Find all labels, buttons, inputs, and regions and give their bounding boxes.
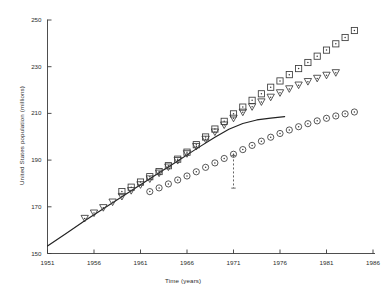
data-point-centre xyxy=(196,146,198,148)
x-tick-label: 1956 xyxy=(74,259,114,266)
data-point-centre xyxy=(289,88,291,90)
data-point-centre xyxy=(289,74,291,76)
data-point-centre xyxy=(84,218,86,220)
data-point-centre xyxy=(177,179,179,181)
data-point-centre xyxy=(261,101,263,103)
data-point-centre xyxy=(158,172,160,174)
data-point-centre xyxy=(242,149,244,151)
series-medium-projection xyxy=(81,70,339,222)
data-point-centre xyxy=(177,160,179,162)
data-point-centre xyxy=(316,120,318,122)
data-point-centre xyxy=(205,139,207,141)
x-tick-label: 1966 xyxy=(167,259,207,266)
data-point-centre xyxy=(270,136,272,138)
data-point-centre xyxy=(335,43,337,45)
series-high-projection xyxy=(119,27,358,194)
data-point-centre xyxy=(326,118,328,120)
data-point-centre xyxy=(121,191,123,193)
data-point-centre xyxy=(112,201,114,203)
data-point-centre xyxy=(279,133,281,135)
y-tick-label: 230 xyxy=(16,63,42,70)
chart-plot-area xyxy=(0,0,390,295)
data-point-centre xyxy=(354,111,356,113)
data-point-centre xyxy=(354,30,356,32)
data-point-centre xyxy=(326,75,328,77)
data-point-centre xyxy=(270,97,272,99)
y-tick-label: 150 xyxy=(16,250,42,257)
data-point-centre xyxy=(251,145,253,147)
data-point-centre xyxy=(158,171,160,173)
data-point-centre xyxy=(289,129,291,131)
data-point-centre xyxy=(168,183,170,185)
data-point-centre xyxy=(121,196,123,198)
data-point-centre xyxy=(149,191,151,193)
data-point-centre xyxy=(196,171,198,173)
x-tick-label: 1961 xyxy=(121,259,161,266)
data-point-centre xyxy=(326,49,328,51)
data-point-centre xyxy=(130,190,132,192)
data-point-centre xyxy=(186,153,188,155)
data-point-centre xyxy=(307,81,309,83)
y-tick-label: 210 xyxy=(16,109,42,116)
data-point-centre xyxy=(168,165,170,167)
data-point-centre xyxy=(177,158,179,160)
data-point-centre xyxy=(270,87,272,89)
data-point-centre xyxy=(186,175,188,177)
data-point-centre xyxy=(103,207,105,209)
series-low-projection xyxy=(147,109,358,195)
data-point-centre xyxy=(298,126,300,128)
data-point-centre xyxy=(168,166,170,168)
data-point-centre xyxy=(233,154,235,156)
data-point-centre xyxy=(140,184,142,186)
data-point-centre xyxy=(223,124,225,126)
data-point-centre xyxy=(214,131,216,133)
data-point-centre xyxy=(261,93,263,95)
data-point-centre xyxy=(307,62,309,64)
data-point-centre xyxy=(316,78,318,80)
data-point-centre xyxy=(251,106,253,108)
data-point-centre xyxy=(344,113,346,115)
x-tick-label: 1986 xyxy=(353,259,390,266)
data-point-centre xyxy=(307,123,309,125)
x-tick-label: 1951 xyxy=(28,259,68,266)
data-point-centre xyxy=(223,158,225,160)
data-point-centre xyxy=(298,84,300,86)
data-point-centre xyxy=(298,68,300,70)
data-point-centre xyxy=(279,80,281,82)
data-point-centre xyxy=(242,111,244,113)
x-axis-title: Time (years) xyxy=(165,277,201,284)
data-point-centre xyxy=(186,151,188,153)
data-point-centre xyxy=(149,178,151,180)
data-point-centre xyxy=(261,140,263,142)
y-tick-label: 170 xyxy=(16,203,42,210)
data-point-centre xyxy=(205,167,207,169)
chart-figure: United States population (millions) Time… xyxy=(0,0,390,295)
x-tick-label: 1981 xyxy=(307,259,347,266)
y-tick-label: 250 xyxy=(16,16,42,23)
data-point-centre xyxy=(196,144,198,146)
data-point-centre xyxy=(242,106,244,108)
data-point-centre xyxy=(251,100,253,102)
data-point-centre xyxy=(158,187,160,189)
data-point-centre xyxy=(214,162,216,164)
data-point-centre xyxy=(93,212,95,214)
data-point-centre xyxy=(316,55,318,57)
data-point-centre xyxy=(233,118,235,120)
x-tick-label: 1976 xyxy=(260,259,300,266)
data-point-centre xyxy=(344,37,346,39)
y-tick-label: 190 xyxy=(16,156,42,163)
data-point-centre xyxy=(335,72,337,74)
data-point-centre xyxy=(335,115,337,117)
y-axis-title: United States population (millions) xyxy=(18,61,25,211)
data-point-centre xyxy=(233,113,235,115)
x-tick-label: 1971 xyxy=(214,259,254,266)
data-point-centre xyxy=(279,92,281,94)
